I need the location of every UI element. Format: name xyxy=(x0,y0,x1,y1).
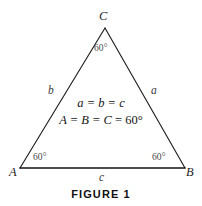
angle-label-vertex-b: 60° xyxy=(152,153,166,163)
equation-angles: A = B = C = 60° xyxy=(0,114,202,127)
side-label-b: b xyxy=(48,85,54,97)
equation-angles-value: = 60° xyxy=(112,113,143,127)
figure-container: C A B b a c 60° 60° 60° a = b = c A = B … xyxy=(0,0,202,206)
equation-angles-text: A = B = C xyxy=(59,113,112,127)
equation-sides: a = b = c xyxy=(0,97,202,110)
angle-label-apex-c: 60° xyxy=(94,44,108,54)
side-label-a: a xyxy=(151,85,157,97)
vertex-label-b: B xyxy=(186,166,194,179)
side-label-c: c xyxy=(99,172,104,184)
vertex-label-c: C xyxy=(99,10,107,23)
equation-sides-text: a = b = c xyxy=(77,96,124,110)
vertex-label-a: A xyxy=(9,166,17,179)
angle-label-vertex-a: 60° xyxy=(33,153,47,163)
figure-caption: FIGURE 1 xyxy=(0,188,202,200)
